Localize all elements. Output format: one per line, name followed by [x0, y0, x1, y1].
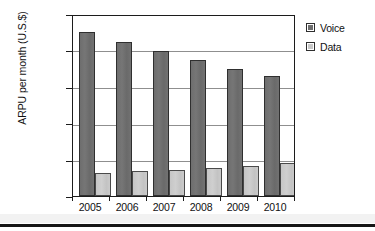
gridline	[73, 88, 294, 89]
bar-voice-2007	[153, 51, 169, 196]
y-axis-title: ARPU per month (U.S.$)	[16, 0, 28, 153]
bar-data-2008	[206, 168, 222, 196]
bar-data-2005	[95, 173, 111, 196]
legend-swatch-voice-icon	[306, 23, 315, 32]
bar-voice-2006	[116, 42, 132, 196]
x-tick-label-2010: 2010	[250, 201, 300, 213]
bar-voice-2005	[79, 32, 95, 196]
page-bottom-rule	[0, 224, 375, 227]
scan-haze-band	[0, 214, 375, 223]
bar-voice-2010	[264, 76, 280, 196]
legend-swatch-data-icon	[306, 42, 315, 51]
legend-entry-data: Data	[306, 37, 372, 56]
legend-label-voice: Voice	[320, 22, 345, 34]
chart-legend: Voice Data	[306, 18, 372, 56]
bar-data-2009	[243, 166, 259, 196]
gridline	[73, 125, 294, 126]
bar-data-2007	[169, 170, 185, 196]
bar-data-2006	[132, 171, 148, 196]
legend-label-data: Data	[320, 41, 341, 53]
gridline	[73, 51, 294, 52]
legend-entry-voice: Voice	[306, 18, 372, 37]
bar-voice-2008	[190, 60, 206, 196]
bar-data-2010	[280, 163, 295, 196]
plot-area	[72, 15, 295, 197]
gridline	[73, 161, 294, 162]
bar-voice-2009	[227, 69, 243, 196]
bar-chart-figure: ARPU per month (U.S.$) 25.00 20.00 15.00…	[0, 0, 375, 231]
